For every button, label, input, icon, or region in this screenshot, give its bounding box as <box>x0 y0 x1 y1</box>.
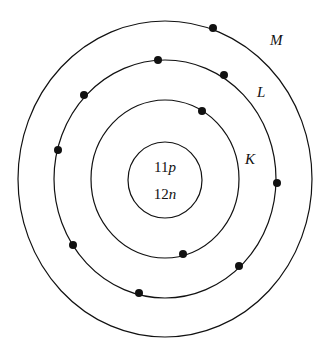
nucleus <box>128 142 202 218</box>
electron-l <box>54 146 62 154</box>
electron-l <box>235 262 243 270</box>
electron-l <box>69 241 77 249</box>
atom-diagram: 11p 12n K L M <box>0 0 329 356</box>
shell-k-orbit <box>91 100 239 258</box>
electron-l <box>135 289 143 297</box>
electron-m <box>209 24 217 32</box>
shell-l-label: L <box>256 84 265 100</box>
shell-k-label: K <box>244 151 256 167</box>
neutrons-label: 12n <box>154 186 177 202</box>
electron-k <box>179 250 187 258</box>
electron-l <box>80 91 88 99</box>
shell-m-orbit <box>18 21 312 337</box>
electron-l <box>273 179 281 187</box>
electron-k <box>198 107 206 115</box>
electron-l <box>154 56 162 64</box>
electron-l <box>220 71 228 79</box>
shell-m-label: M <box>269 32 284 48</box>
protons-label: 11p <box>154 159 176 175</box>
